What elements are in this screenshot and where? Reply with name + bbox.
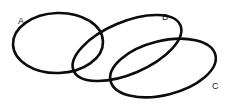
set-label-c: C — [212, 81, 219, 91]
set-label-b: B — [162, 12, 168, 22]
set-ellipse-a — [12, 11, 104, 74]
set-ellipse-b — [63, 1, 190, 94]
set-label-a: A — [18, 16, 24, 26]
set-ellipse-c — [104, 29, 222, 105]
venn-diagram-svg: A B C — [0, 0, 231, 105]
venn-diagram-canvas: A B C — [0, 0, 231, 105]
